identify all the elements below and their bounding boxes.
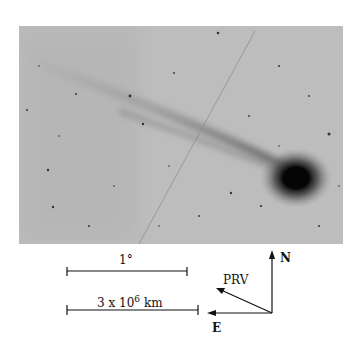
compass-prv-label: PRV bbox=[223, 274, 248, 286]
scale-bar-degree-label: 1° bbox=[119, 254, 133, 266]
annotations bbox=[0, 0, 361, 350]
scale-km-unit: km bbox=[144, 296, 163, 310]
comet-figure: 1° 3 x 106 km N PRV E bbox=[0, 0, 361, 350]
scale-km-base: 3 x 10 bbox=[97, 296, 134, 310]
compass-east-label: E bbox=[212, 322, 221, 334]
compass-north-label: N bbox=[280, 252, 291, 264]
scale-bar-km-label: 3 x 106 km bbox=[97, 293, 163, 309]
scale-km-exponent: 6 bbox=[134, 294, 140, 304]
